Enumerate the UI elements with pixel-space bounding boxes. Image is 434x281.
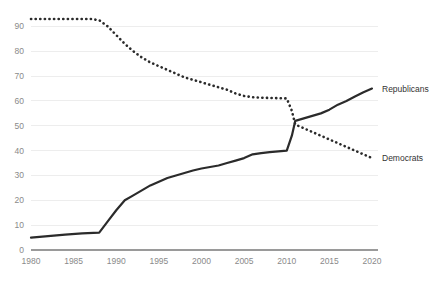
y-tick-label: 70 (15, 71, 25, 81)
line-chart: 0102030405060708090 19801985199019952000… (0, 0, 434, 281)
x-tick-label: 2015 (320, 256, 339, 266)
x-tick-label: 2000 (192, 256, 211, 266)
x-tick-label: 1990 (107, 256, 126, 266)
y-tick-label: 80 (15, 46, 25, 56)
y-tick-label: 30 (15, 170, 25, 180)
series-line-democrats (31, 19, 372, 158)
x-tick-label: 1985 (64, 256, 83, 266)
x-tick-label: 1980 (22, 256, 41, 266)
chart-canvas: 0102030405060708090 19801985199019952000… (0, 0, 434, 281)
y-tick-label: 10 (15, 220, 25, 230)
y-tick-label: 40 (15, 146, 25, 156)
x-tick-label: 1995 (149, 256, 168, 266)
x-tick-label: 2010 (277, 256, 296, 266)
x-tick-label: 2005 (235, 256, 254, 266)
y-tick-label: 50 (15, 121, 25, 131)
series-line-republicans (31, 89, 372, 238)
series-label-republicans: Republicans (382, 84, 429, 94)
y-axis-tick-labels: 0102030405060708090 (15, 21, 25, 255)
y-tick-label: 60 (15, 96, 25, 106)
series-label-democrats: Democrats (382, 153, 423, 163)
y-tick-label: 20 (15, 195, 25, 205)
x-axis-tick-labels: 198019851990199520002005201020152020 (22, 256, 382, 266)
y-tick-label: 0 (19, 245, 24, 255)
x-tick-label: 2020 (363, 256, 382, 266)
gridlines-group (31, 26, 378, 225)
y-tick-label: 90 (15, 21, 25, 31)
